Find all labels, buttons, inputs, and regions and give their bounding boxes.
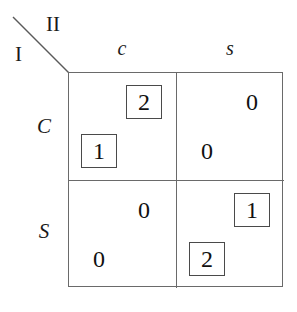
matrix-cell-S-c: 0 0 [69,181,177,288]
matrix-cell-S-s: 1 2 [177,181,284,288]
matrix-grid: 2 1 0 0 0 0 1 [68,72,283,287]
column-header-s: s [176,38,284,58]
column-payoff-S-c: 0 [126,193,162,227]
row-payoff-S-c: 0 [81,242,117,276]
row-payoff-C-c: 1 [81,134,117,168]
row-header-S: S [24,221,64,242]
column-payoff-S-s: 1 [234,193,270,227]
row-header-C: C [24,116,64,137]
row-payoff-C-s: 0 [189,134,225,168]
column-payoff-C-c: 2 [126,85,162,119]
column-payoff-C-s: 0 [234,85,270,119]
matrix-cell-C-c: 2 1 [69,73,177,181]
payoff-matrix-figure: II I c s C S 2 1 0 0 0 [0,0,297,312]
column-player-label: II [46,14,60,35]
column-header-c: c [68,38,176,58]
row-payoff-S-s: 2 [189,242,225,276]
matrix-cell-C-s: 0 0 [177,73,284,181]
row-player-label: I [15,44,22,65]
